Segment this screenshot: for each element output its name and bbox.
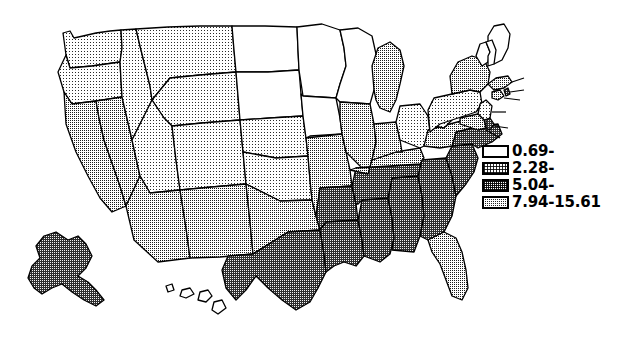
legend-swatch-3 xyxy=(482,196,509,209)
legend-swatch-2 xyxy=(482,179,509,192)
state-la: Louisiana xyxy=(320,220,364,272)
legend-label-3: 7.94-15.61 xyxy=(512,195,601,210)
state-hi: Hawaii xyxy=(166,284,174,292)
legend-item: 7.94-15.61 xyxy=(482,195,632,210)
state-al: Alabama xyxy=(388,176,424,252)
state-ri: Rhode Island xyxy=(504,88,510,96)
state-ia: Iowa xyxy=(301,94,342,138)
callout-ri xyxy=(510,90,524,92)
state-sd: South Dakota xyxy=(236,70,303,120)
legend-item: 0.69- xyxy=(482,144,632,159)
state-ak: Alaska xyxy=(28,232,104,306)
state-hi: Hawaii xyxy=(180,288,194,298)
legend-item: 2.28- xyxy=(482,161,632,176)
legend-label-0: 0.69- xyxy=(512,144,554,159)
state-ms: Mississippi xyxy=(358,198,394,262)
state-fl: Florida xyxy=(428,232,468,300)
legend-label-1: 2.28- xyxy=(512,161,554,176)
map-legend: 0.69- 2.28- 5.04- 7.94-15.61 xyxy=(482,144,632,210)
state-mi: Michigan xyxy=(372,42,404,112)
callout-ma xyxy=(512,78,524,82)
state-co: Colorado xyxy=(172,120,246,190)
choropleth-figure: WashingtonOregonCaliforniaNevadaIdahoMon… xyxy=(0,0,633,338)
legend-swatch-0 xyxy=(482,145,509,158)
state-nm: New Mexico xyxy=(180,184,253,258)
callout-ct xyxy=(504,98,520,100)
state-wa: Washington xyxy=(63,30,122,68)
legend-item: 5.04- xyxy=(482,178,632,193)
legend-swatch-1 xyxy=(482,162,509,175)
state-hi: Hawaii xyxy=(198,290,212,302)
state-ne: Nebraska xyxy=(240,116,308,158)
state-hi: Hawaii xyxy=(212,300,226,314)
legend-label-2: 5.04- xyxy=(512,178,554,193)
state-nd: North Dakota xyxy=(232,26,299,72)
state-ct: Connecticut xyxy=(492,90,504,100)
